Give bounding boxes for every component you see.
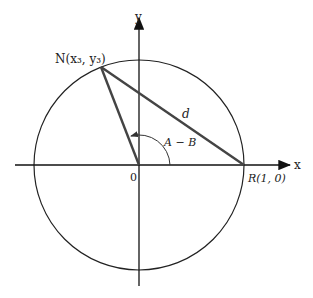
- origin-label: 0: [130, 171, 137, 184]
- segment-ON: [101, 67, 139, 165]
- distance-label: d: [182, 107, 190, 121]
- segment-NR: [101, 67, 244, 165]
- y-axis-label: y: [134, 10, 142, 24]
- x-axis-label: x: [294, 158, 301, 172]
- point-N-label: N(x₃, y₃): [55, 52, 106, 66]
- unit-circle-diagram: y x 0 N(x₃, y₃) R(1, 0) d A − B: [0, 0, 313, 298]
- point-R-label: R(1, 0): [247, 172, 286, 185]
- diagram-canvas: y x 0 N(x₃, y₃) R(1, 0) d A − B: [0, 0, 313, 298]
- angle-label: A − B: [163, 136, 196, 149]
